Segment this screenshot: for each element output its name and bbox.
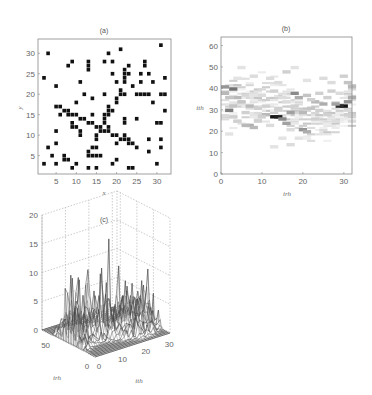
panel-b-ylabel: ith: [196, 104, 204, 112]
heatmap-cell: [323, 133, 331, 135]
heatmap-cell: [282, 122, 290, 125]
heatmap-cell: [250, 95, 258, 97]
data-point: [87, 154, 91, 158]
heatmap-cell: [287, 128, 295, 131]
heatmap-cell: [262, 86, 270, 88]
heatmap-cell: [336, 110, 344, 112]
data-point: [62, 158, 66, 162]
heatmap-cell: [242, 111, 250, 114]
heatmap-cell: [323, 96, 331, 99]
data-point: [58, 113, 62, 117]
heatmap-cell: [323, 123, 331, 125]
heatmap-cell: [270, 103, 278, 105]
data-point: [95, 133, 99, 137]
data-point: [159, 121, 163, 125]
heatmap-cell: [315, 123, 323, 125]
heatmap-cell: [254, 97, 262, 99]
heatmap-cell: [291, 118, 299, 120]
heatmap-cell: [233, 77, 241, 80]
data-point: [135, 117, 139, 121]
data-point: [42, 162, 46, 166]
heatmap-cell: [344, 81, 352, 84]
x-tick-label: 0: [97, 362, 102, 371]
data-point: [119, 47, 123, 51]
heatmap-cell: [303, 94, 311, 97]
grid-line: [42, 220, 117, 244]
heatmap-cell: [250, 93, 258, 95]
data-point: [103, 121, 107, 125]
heatmap-cell: [323, 113, 331, 116]
y-tick-label: 50: [41, 341, 50, 350]
data-point: [155, 121, 159, 125]
heatmap-cell: [332, 127, 340, 129]
panel-b-title: (b): [282, 25, 291, 33]
heatmap-cell: [229, 87, 237, 90]
heatmap-cell: [344, 93, 352, 95]
heatmap-cell: [225, 96, 233, 99]
heatmap-cell: [323, 110, 331, 112]
heatmap-cell: [270, 84, 278, 86]
data-point: [62, 154, 66, 158]
data-point: [54, 105, 58, 109]
y-tick-label: 20: [26, 90, 35, 99]
x-tick-label: 25: [132, 177, 141, 186]
heatmap-cell: [319, 77, 327, 80]
data-point: [127, 64, 131, 68]
grid-line: [42, 191, 117, 215]
data-point: [66, 113, 70, 117]
heatmap-cell: [282, 100, 290, 103]
heatmap-cell: [221, 116, 229, 118]
data-point: [163, 76, 167, 80]
data-point: [83, 117, 87, 121]
z-tick-label: 15: [29, 240, 38, 249]
data-point: [111, 109, 115, 113]
figure: (a) 5101520253051015202530 x y (b) 01020…: [0, 0, 372, 395]
heatmap-cell: [299, 114, 307, 116]
data-point: [119, 88, 123, 92]
grid-line: [42, 249, 117, 273]
data-point: [75, 125, 79, 129]
heatmap-cell: [225, 109, 233, 112]
x-tick-label: 30: [152, 177, 161, 186]
x-tick-label: 20: [141, 347, 150, 356]
y-tick-label: 10: [209, 149, 218, 158]
data-point: [115, 101, 119, 105]
heatmap-cell: [323, 121, 331, 123]
data-point: [123, 80, 127, 84]
heatmap-cell: [229, 101, 237, 103]
heatmap-cell: [287, 88, 295, 90]
heatmap-cell: [242, 116, 250, 118]
heatmap-cell: [295, 96, 303, 99]
data-point: [54, 129, 58, 133]
heatmap-cell: [278, 117, 286, 120]
heatmap-cell: [225, 132, 233, 135]
heatmap-cell: [242, 95, 250, 97]
data-point: [95, 125, 99, 129]
panel-b-xlabel: irh: [283, 190, 292, 198]
heatmap-cell: [336, 112, 344, 114]
x-tick-label: 20: [298, 177, 307, 186]
heatmap-cell: [340, 121, 348, 123]
data-point: [147, 72, 151, 76]
heatmap-cell: [315, 109, 323, 112]
data-point: [119, 92, 123, 96]
z-tick-label: 0: [34, 326, 39, 335]
data-point: [91, 113, 95, 117]
heatmap-cell: [307, 140, 315, 142]
data-point: [66, 109, 70, 113]
heatmap-cell: [229, 104, 237, 107]
data-point: [131, 84, 135, 88]
heatmap-cell: [287, 111, 295, 114]
panel-a: (a) 5101520253051015202530 x y: [16, 27, 171, 197]
heatmap-cell: [229, 112, 237, 114]
heatmap-cell: [274, 110, 282, 112]
data-point: [75, 162, 79, 166]
panel-a-ylabel: y: [16, 106, 24, 111]
data-point: [66, 158, 70, 162]
y-tick-label: 60: [209, 42, 218, 51]
y-tick-label: 50: [209, 63, 218, 72]
data-point: [95, 166, 99, 170]
data-point: [103, 129, 107, 133]
heatmap-cell: [250, 75, 258, 78]
heatmap-cell: [315, 133, 323, 135]
